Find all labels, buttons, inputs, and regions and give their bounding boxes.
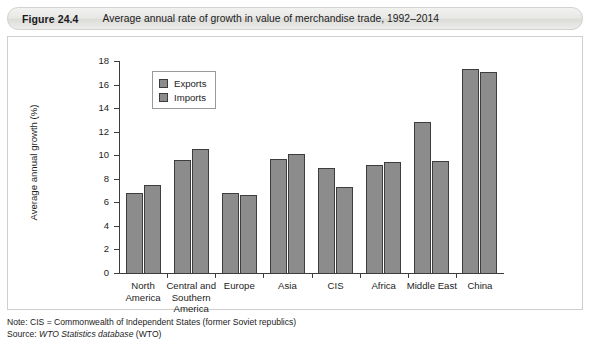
y-axis-title: Average annual growth (%) (28, 93, 39, 233)
bar-exports-1 (174, 160, 191, 274)
y-tick-label-12: 12 (89, 126, 109, 137)
y-tick-0 (114, 273, 119, 274)
chart-panel: 024681012141618 Average annual growth (%… (7, 36, 583, 310)
chart-legend: Exports Imports (152, 71, 216, 109)
source-title: WTO Statistics database (39, 329, 133, 339)
figure-caption: Average annual rate of growth in value o… (103, 13, 439, 24)
y-tick-label-16: 16 (89, 79, 109, 90)
note-line: Note: CIS = Commonwealth of Independent … (7, 316, 583, 328)
footnotes: Note: CIS = Commonwealth of Independent … (7, 316, 583, 340)
x-tick-7 (456, 274, 457, 278)
y-tick-label-4: 4 (89, 220, 109, 231)
bar-imports-6 (432, 161, 449, 274)
bar-imports-2 (240, 195, 257, 274)
y-tick-18 (114, 61, 119, 62)
bar-exports-0 (126, 193, 143, 274)
bar-imports-3 (288, 154, 305, 274)
y-tick-4 (114, 226, 119, 227)
bar-chart-plot-area: 024681012141618 Average annual growth (%… (8, 37, 584, 311)
bar-exports-6 (414, 122, 431, 274)
y-tick-label-0: 0 (89, 267, 109, 278)
y-tick-6 (114, 202, 119, 203)
bar-exports-3 (270, 159, 287, 274)
bar-imports-7 (480, 72, 497, 274)
x-tick-2 (215, 274, 216, 278)
legend-item-exports: Exports (159, 76, 207, 90)
bar-exports-4 (318, 168, 335, 274)
x-tick-1 (167, 274, 168, 278)
x-tick-5 (360, 274, 361, 278)
y-tick-8 (114, 179, 119, 180)
source-line: Source: WTO Statistics database (WTO) (7, 328, 583, 340)
legend-item-imports: Imports (159, 90, 207, 104)
figure-number: Figure 24.4 (22, 13, 79, 25)
y-tick-2 (114, 249, 119, 250)
bar-imports-1 (192, 149, 209, 274)
legend-label-imports: Imports (174, 92, 206, 103)
source-suffix: (WTO) (133, 329, 161, 339)
legend-swatch-imports (159, 93, 168, 102)
figure-header-bar: Figure 24.4 Average annual rate of growt… (7, 7, 583, 30)
bar-exports-5 (366, 165, 383, 274)
bar-imports-5 (384, 162, 401, 274)
legend-swatch-exports (159, 79, 168, 88)
x-tick-4 (312, 274, 313, 278)
y-tick-label-2: 2 (89, 243, 109, 254)
source-prefix: Source: (7, 329, 39, 339)
bar-imports-0 (144, 185, 161, 274)
x-tick-6 (408, 274, 409, 278)
bar-exports-7 (462, 69, 479, 274)
y-tick-label-8: 8 (89, 173, 109, 184)
y-tick-label-18: 18 (89, 55, 109, 66)
y-axis-line (119, 61, 120, 274)
y-tick-10 (114, 155, 119, 156)
category-label-7: China (448, 280, 512, 292)
bar-exports-2 (222, 193, 239, 274)
bar-imports-4 (336, 187, 353, 274)
x-tick-3 (263, 274, 264, 278)
y-tick-16 (114, 85, 119, 86)
y-tick-14 (114, 108, 119, 109)
legend-label-exports: Exports (174, 78, 207, 89)
y-tick-label-6: 6 (89, 196, 109, 207)
y-tick-label-14: 14 (89, 102, 109, 113)
y-tick-12 (114, 132, 119, 133)
y-tick-label-10: 10 (89, 149, 109, 160)
